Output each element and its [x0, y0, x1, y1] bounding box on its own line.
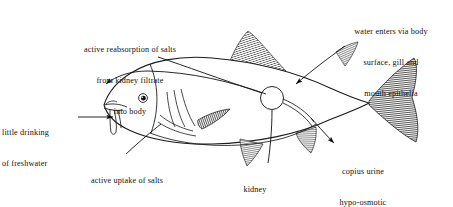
label-copius-urine-line1: copius urine: [316, 167, 410, 177]
label-water-enters-line2: surface, gill and: [330, 58, 452, 68]
label-active-uptake-line1: active uptake of salts: [62, 176, 192, 186]
kidney-organ: [261, 87, 284, 110]
label-water-enters: water enters via body surface, gill and …: [330, 6, 452, 120]
label-copius-urine: copius urine hypo-osmotic to blood: [316, 146, 410, 207]
osmoregulation-diagram: active reabsorption of salts from kidney…: [0, 0, 453, 207]
label-copius-urine-line2: hypo-osmotic: [316, 198, 410, 207]
label-active-reabsorption-line2: from kidney filtrate: [64, 76, 196, 86]
label-water-enters-line1: water enters via body: [330, 27, 452, 37]
label-kidney-line1: kidney: [203, 185, 307, 195]
label-active-reabsorption: active reabsorption of salts from kidney…: [64, 24, 196, 138]
label-little-drinking-line1: little drinking: [2, 128, 82, 138]
label-active-reabsorption-line3: into body: [64, 107, 196, 117]
label-active-uptake: active uptake of salts via gill epitheli…: [62, 155, 192, 207]
label-water-enters-line3: mouth epithelia: [330, 89, 452, 99]
label-kidney: kidney (high filtration rate): [203, 164, 307, 207]
label-active-reabsorption-line1: active reabsorption of salts: [64, 45, 196, 55]
